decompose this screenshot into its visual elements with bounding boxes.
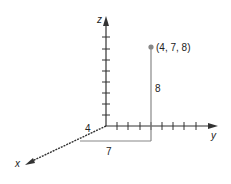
y-length-label: 7 xyxy=(106,146,112,157)
y-axis-arrow-icon xyxy=(208,123,218,129)
point-label: (4, 7, 8) xyxy=(156,42,190,53)
x-length-label: 4 xyxy=(85,123,91,134)
z-length-label: 8 xyxy=(155,83,161,94)
y-axis-label: y xyxy=(210,130,217,141)
point-marker xyxy=(148,44,153,49)
x-axis-label: x xyxy=(14,158,21,169)
z-axis: z xyxy=(96,14,110,126)
z-axis-label: z xyxy=(96,14,102,25)
y-axis: y xyxy=(106,122,218,141)
z-axis-arrow-icon xyxy=(103,16,109,26)
coordinate-diagram: z y x (4, 7, 8) 8 7 4 xyxy=(0,0,231,184)
x-axis-arrow-icon xyxy=(25,158,35,165)
x-axis: x xyxy=(14,126,106,169)
